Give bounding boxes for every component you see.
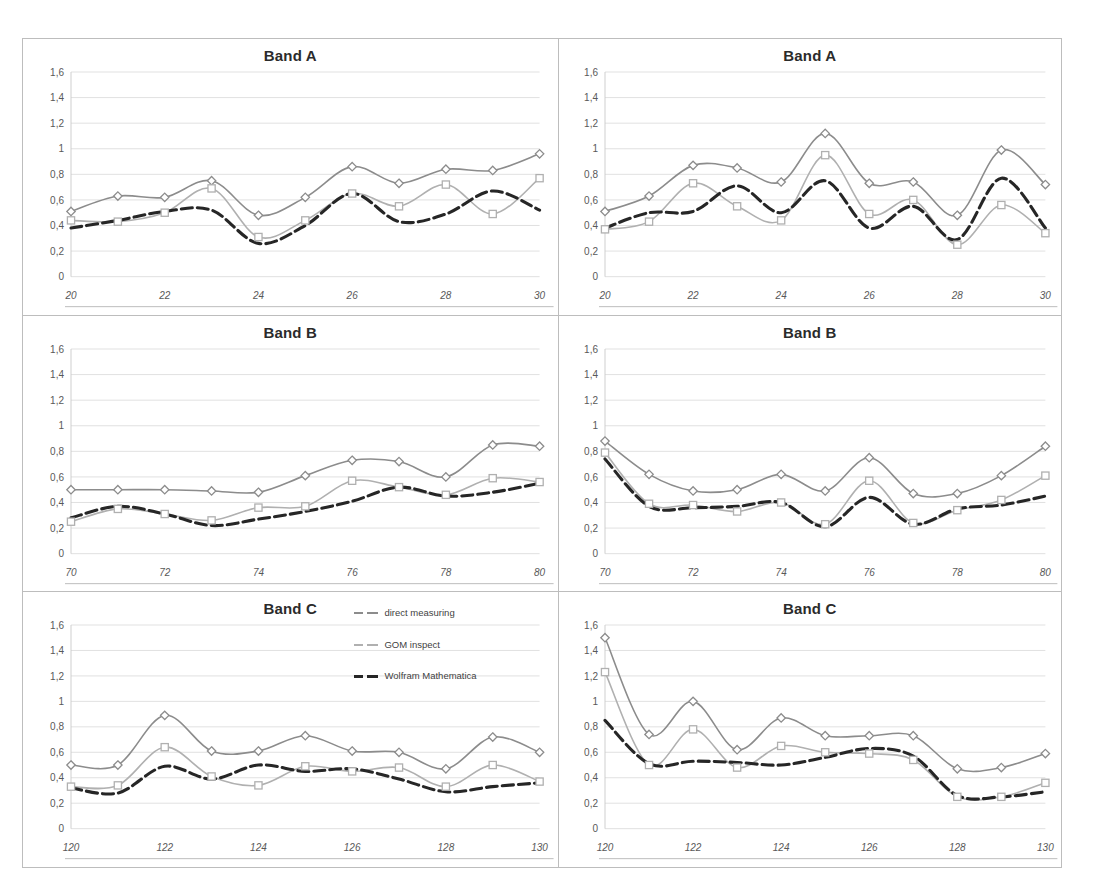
y-tick-label: 0,4 [50,497,64,508]
y-tick-label: 0,2 [584,522,598,533]
marker-diamond [909,489,917,497]
marker-diamond [909,732,917,740]
marker-diamond [161,711,169,719]
marker-square [114,505,121,512]
marker-diamond [207,177,215,185]
marker-square [645,762,652,769]
x-tick-label: 20 [64,290,77,301]
y-tick-label: 1 [58,696,64,707]
marker-diamond [688,697,696,705]
legend-item-gom-inspect[interactable]: GOM inspect [354,640,476,650]
x-tick-label: 70 [599,566,611,577]
marker-square [536,175,543,182]
legend-label: direct measuring [384,608,454,618]
charts-sheet: Band A 00,20,40,60,811,21,41,62022242628… [22,38,1062,868]
marker-square [536,478,543,485]
plot-band-b-right[interactable]: 00,20,40,60,811,21,41,6707274767880 [559,316,1061,592]
marker-diamond [67,485,75,493]
x-tick-label: 30 [1039,290,1051,301]
marker-square [909,196,916,203]
marker-square [349,768,356,775]
y-tick-label: 1,2 [584,118,598,129]
x-tick-label: 72 [687,566,699,577]
y-tick-label: 0 [58,271,64,282]
chart-panel-band-a-right[interactable]: Band A 00,20,40,60,811,21,41,62022242628… [558,38,1062,315]
y-tick-label: 0,2 [584,246,598,257]
marker-diamond [442,765,450,773]
x-tick-label: 126 [344,842,361,853]
x-tick-label: 74 [775,566,787,577]
x-tick-label: 20 [598,290,611,301]
marker-diamond [600,207,608,215]
y-tick-label: 1,6 [584,620,598,631]
marker-square [255,782,262,789]
y-tick-label: 1,2 [584,394,598,405]
marker-square [349,477,356,484]
y-tick-label: 0,6 [584,195,598,206]
marker-diamond [953,489,961,497]
marker-diamond [489,733,497,741]
marker-diamond [161,485,169,493]
x-tick-label: 120 [63,842,80,853]
x-tick-label: 26 [862,290,875,301]
series-line-diamond [71,716,540,770]
plot-band-a-left[interactable]: 00,20,40,60,811,21,41,6202224262830 [23,39,558,315]
y-tick-label: 0,4 [584,773,598,784]
marker-diamond [395,748,403,756]
chart-panel-band-c-right[interactable]: Band C 00,20,40,60,811,21,41,61201221241… [558,591,1062,868]
marker-square [953,506,960,513]
marker-square [489,474,496,481]
plot-band-c-left[interactable]: 00,20,40,60,811,21,41,612012212412612813… [23,592,558,867]
marker-square [997,496,1004,503]
x-tick-label: 78 [951,566,963,577]
marker-diamond [254,488,262,496]
marker-square [302,217,309,224]
marker-diamond [688,486,696,494]
marker-square [114,782,121,789]
chart-panel-band-b-right[interactable]: Band B 00,20,40,60,811,21,41,67072747678… [558,315,1062,592]
marker-diamond [114,485,122,493]
x-tick-label: 74 [253,566,265,577]
legend-item-wolfram-mathematica[interactable]: Wolfram Mathematica [354,671,476,681]
x-tick-label: 124 [772,842,789,853]
marker-square [733,508,740,515]
legend-item-direct-measuring[interactable]: direct measuring [354,608,476,618]
legend-label: GOM inspect [384,640,439,650]
marker-square [865,750,872,757]
y-tick-label: 0 [58,548,64,559]
plot-band-a-right[interactable]: 00,20,40,60,811,21,41,6202224262830 [559,39,1061,315]
marker-diamond [489,166,497,174]
y-tick-label: 0,6 [50,471,64,482]
marker-diamond [865,732,873,740]
plot-band-c-right[interactable]: 00,20,40,60,811,21,41,612012212412612813… [559,592,1061,867]
marker-diamond [865,453,873,461]
y-tick-label: 0,8 [50,446,64,457]
chart-panel-band-b-left[interactable]: Band B 00,20,40,60,811,21,41,67072747678… [22,315,558,592]
marker-square [442,491,449,498]
y-tick-label: 0,4 [584,497,598,508]
legend-dash-b [367,675,378,678]
marker-square [865,210,872,217]
y-tick-label: 0,4 [584,220,598,231]
x-tick-label: 28 [950,290,963,301]
y-tick-label: 1,4 [584,369,598,380]
marker-square [1041,780,1048,787]
marker-square [161,510,168,517]
y-tick-label: 1,4 [50,645,64,656]
chart-panel-band-a-left[interactable]: Band A 00,20,40,60,811,21,41,62022242628… [22,38,558,315]
marker-diamond [1041,750,1049,758]
chart-panel-band-c-left[interactable]: Band C 00,20,40,60,811,21,41,61201221241… [22,591,558,868]
marker-diamond [442,472,450,480]
x-tick-label: 80 [1039,566,1051,577]
x-tick-label: 22 [158,290,171,301]
marker-square [733,203,740,210]
legend-dash-b [367,612,378,614]
x-tick-label: 70 [65,566,77,577]
plot-band-b-left[interactable]: 00,20,40,60,811,21,41,6707274767880 [23,316,558,592]
marker-square [395,764,402,771]
marker-square [689,726,696,733]
marker-square [689,180,696,187]
legend-dash-a [354,675,363,678]
marker-diamond [395,457,403,465]
marker-diamond [997,764,1005,772]
